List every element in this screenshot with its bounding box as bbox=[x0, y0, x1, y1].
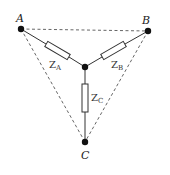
label-zc: ZC bbox=[91, 92, 103, 105]
node-c bbox=[82, 139, 88, 145]
impedance-zb-resistor bbox=[101, 41, 127, 59]
label-b: B bbox=[141, 14, 150, 27]
branch-c bbox=[82, 67, 88, 142]
node-a bbox=[18, 26, 24, 32]
label-a: A bbox=[15, 12, 24, 25]
impedance-zc-resistor bbox=[82, 84, 88, 112]
node-neutral bbox=[82, 64, 88, 70]
impedance-za-resistor bbox=[45, 41, 70, 59]
label-c: C bbox=[81, 149, 90, 162]
dashed-edge-ab bbox=[21, 29, 148, 31]
label-za: ZA bbox=[49, 59, 62, 72]
star-connection-diagram: A B C ZA ZB ZC bbox=[0, 0, 170, 175]
circuit-svg: A B C ZA ZB ZC bbox=[0, 0, 170, 175]
node-b bbox=[145, 28, 151, 34]
label-zb: ZB bbox=[111, 59, 123, 72]
